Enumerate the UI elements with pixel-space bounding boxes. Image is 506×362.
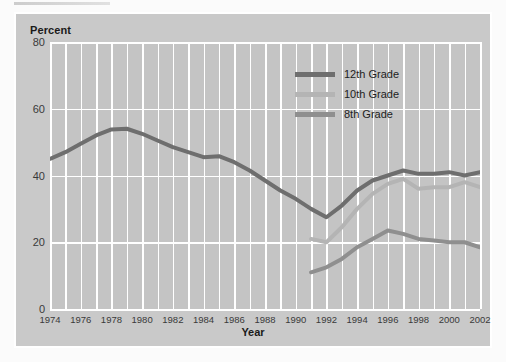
y-tick-label: 40: [33, 170, 45, 182]
legend-item: 12th Grade: [295, 64, 399, 84]
x-tick-label: 1986: [224, 314, 245, 325]
legend-label: 10th Grade: [344, 88, 399, 100]
x-tick-label: 1974: [39, 314, 60, 325]
x-tick-label: 1988: [254, 314, 275, 325]
series-line: [311, 231, 480, 273]
x-tick-label: 2000: [439, 314, 460, 325]
y-axis-title: Percent: [30, 24, 71, 36]
x-tick-label: 1980: [132, 314, 153, 325]
scan-artifact-strip: [14, 2, 110, 5]
chart-legend: 12th Grade10th Grade8th Grade: [295, 64, 399, 124]
gridline-horizontal: [50, 309, 480, 311]
x-tick-label: 1976: [70, 314, 91, 325]
x-tick-label: 2002: [469, 314, 490, 325]
y-tick-label: 60: [33, 103, 45, 115]
series-lines: [50, 42, 480, 309]
chart-figure: Percent 020406080 1974197619781980198219…: [14, 12, 492, 348]
x-tick-label: 1998: [408, 314, 429, 325]
legend-item: 10th Grade: [295, 84, 399, 104]
legend-label: 8th Grade: [344, 108, 393, 120]
x-tick-label: 1996: [377, 314, 398, 325]
x-axis-title: Year: [16, 326, 490, 338]
series-line: [50, 129, 480, 217]
y-tick-label: 80: [33, 36, 45, 48]
plot-area: 020406080 197419761978198019821984198619…: [50, 42, 480, 309]
legend-swatch: [295, 112, 335, 117]
legend-swatch: [295, 72, 335, 77]
legend-item: 8th Grade: [295, 104, 399, 124]
x-tick-label: 1982: [162, 314, 183, 325]
x-tick-label: 1984: [193, 314, 214, 325]
x-tick-label: 1994: [347, 314, 368, 325]
page-root: Percent 020406080 1974197619781980198219…: [0, 0, 506, 362]
gridline-vertical: [480, 42, 482, 309]
y-tick-label: 20: [33, 236, 45, 248]
x-tick-label: 1990: [285, 314, 306, 325]
x-tick-label: 1978: [101, 314, 122, 325]
legend-swatch: [295, 92, 335, 97]
legend-label: 12th Grade: [344, 68, 399, 80]
x-tick-label: 1992: [316, 314, 337, 325]
